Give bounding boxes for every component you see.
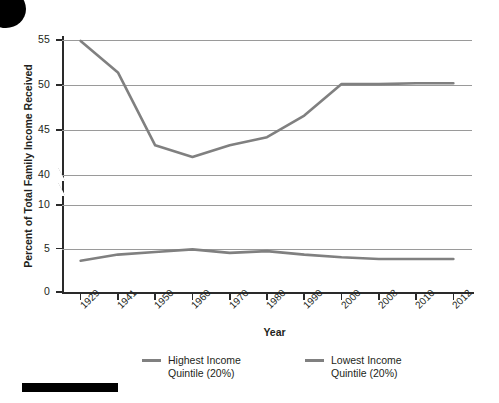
legend-item: Highest Income Quintile (20%) <box>142 354 241 380</box>
series-line-lowest-quintile <box>81 249 454 260</box>
income-quintile-line-chart: 555045401050 192919411950196019701980199… <box>0 0 499 403</box>
legend-item: Lowest Income Quintile (20%) <box>305 354 402 380</box>
legend-label: Lowest Income Quintile (20%) <box>331 354 402 380</box>
x-axis-title: Year <box>0 326 499 338</box>
data-series-layer <box>0 0 499 403</box>
y-axis-title: Percent of Total Family Income Received <box>22 46 34 286</box>
chart-legend: Highest Income Quintile (20%)Lowest Inco… <box>0 354 499 388</box>
legend-swatch-icon <box>142 359 161 362</box>
series-line-highest-quintile <box>81 41 454 157</box>
legend-label: Highest Income Quintile (20%) <box>168 354 241 380</box>
legend-swatch-icon <box>305 359 324 362</box>
